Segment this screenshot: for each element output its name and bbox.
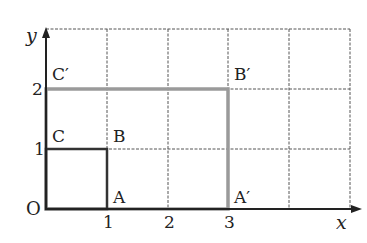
y-tick-1: 1: [34, 141, 45, 158]
x-tick-3: 3: [224, 214, 235, 231]
x-tick-2: 2: [164, 214, 175, 231]
x-axis-label: x: [336, 213, 347, 232]
coordinate-diagram: [0, 0, 367, 243]
point-label-c-prime: C′: [52, 66, 69, 83]
x-axis-arrow-icon: [351, 205, 362, 213]
point-label-c: C: [52, 128, 65, 145]
point-label-a: A: [113, 189, 125, 206]
y-tick-2: 2: [32, 81, 43, 98]
x-tick-1: 1: [103, 214, 114, 231]
origin-label: O: [26, 200, 41, 218]
axes: [45, 36, 356, 210]
y-axis-label: y: [26, 26, 37, 45]
point-label-b: B: [113, 128, 126, 145]
point-label-b-prime: B′: [234, 66, 250, 83]
grid: [46, 29, 350, 209]
point-label-a-prime: A′: [234, 189, 250, 206]
small-square: [46, 149, 107, 209]
